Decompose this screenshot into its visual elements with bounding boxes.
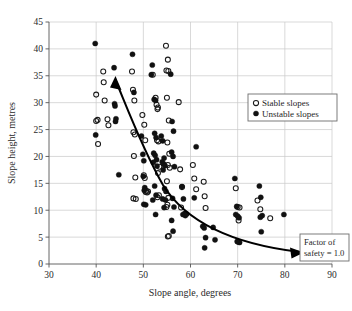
- data-point: [176, 100, 181, 105]
- annotation-line-1: Factor of: [304, 237, 335, 247]
- data-point: [130, 69, 135, 74]
- y-axis-title: Slope height, metres: [6, 102, 17, 184]
- data-point: [102, 98, 107, 103]
- legend: Stable slopes Unstable slopes: [248, 94, 337, 121]
- data-point: [192, 195, 197, 200]
- data-point: [212, 237, 217, 242]
- data-point: [163, 197, 168, 202]
- data-point: [113, 119, 118, 124]
- y-tick-label-10: 10: [34, 206, 44, 216]
- data-point: [161, 205, 166, 210]
- data-point: [202, 194, 207, 199]
- data-point: [116, 172, 121, 177]
- data-point: [192, 176, 197, 181]
- data-point: [165, 57, 170, 62]
- data-point: [163, 43, 168, 48]
- annotation-line-2: safety = 1.0: [304, 248, 344, 258]
- data-point: [150, 197, 155, 202]
- data-point: [165, 140, 170, 145]
- data-point: [141, 174, 146, 179]
- data-point: [160, 138, 165, 143]
- data-point: [153, 193, 158, 198]
- chart-canvas: 051015202530354045 30405060708090 Slope …: [0, 0, 352, 311]
- data-point: [168, 72, 173, 77]
- data-point: [258, 207, 263, 212]
- data-point: [93, 132, 98, 137]
- data-point: [93, 41, 98, 46]
- data-point: [190, 163, 195, 168]
- data-point: [131, 153, 136, 158]
- y-tick-label-35: 35: [34, 71, 44, 81]
- y-tick-label-20: 20: [34, 152, 44, 162]
- data-point: [170, 229, 175, 234]
- x-tick-label-50: 50: [139, 270, 149, 280]
- legend-label-unstable-slopes: Unstable slopes: [262, 109, 319, 119]
- data-point: [181, 196, 186, 201]
- factor-of-safety-annotation: Factor of safety = 1.0: [300, 234, 349, 261]
- x-tick-label-40: 40: [91, 270, 101, 280]
- y-tick-label-40: 40: [34, 44, 44, 54]
- data-point: [101, 80, 106, 85]
- data-point: [258, 195, 263, 200]
- data-point: [194, 187, 199, 192]
- data-point: [141, 158, 146, 163]
- data-point: [132, 98, 137, 103]
- x-axis-title: Slope angle, degrees: [149, 287, 232, 298]
- fos-arrowhead-upper-icon: [110, 76, 122, 90]
- slope-stability-scatter-chart: 051015202530354045 30405060708090 Slope …: [0, 0, 352, 311]
- x-tick-label-30: 30: [44, 270, 54, 280]
- data-point: [259, 229, 264, 234]
- data-point: [142, 122, 147, 127]
- data-point: [152, 183, 157, 188]
- data-point: [149, 72, 154, 77]
- data-point: [112, 103, 117, 108]
- data-point: [170, 119, 175, 124]
- data-point: [203, 206, 208, 211]
- data-point: [169, 218, 174, 223]
- y-tick-label-45: 45: [34, 17, 44, 27]
- data-point: [142, 188, 147, 193]
- data-point: [153, 98, 158, 103]
- x-tick-label-80: 80: [280, 270, 290, 280]
- data-point: [281, 212, 286, 217]
- data-point: [101, 69, 106, 74]
- data-point: [131, 90, 136, 95]
- data-point: [153, 135, 158, 140]
- data-point: [178, 167, 183, 172]
- data-point: [159, 133, 164, 138]
- y-axis-ticks: 051015202530354045: [34, 17, 50, 269]
- y-tick-label-0: 0: [38, 259, 43, 269]
- data-point: [133, 175, 138, 180]
- data-point: [203, 235, 208, 240]
- x-axis-ticks: 30405060708090: [44, 264, 337, 280]
- legend-label-stable-slopes: Stable slopes: [262, 98, 310, 108]
- y-tick-label-15: 15: [34, 179, 44, 189]
- data-point: [140, 113, 145, 118]
- data-point: [150, 62, 155, 67]
- y-tick-label-30: 30: [34, 98, 44, 108]
- data-point: [141, 202, 146, 207]
- data-point: [164, 179, 169, 184]
- data-point: [194, 144, 199, 149]
- data-point: [257, 183, 262, 188]
- data-point: [130, 52, 135, 57]
- data-point: [153, 212, 158, 217]
- legend-marker-filled-circle-icon: [253, 111, 258, 116]
- data-point: [106, 123, 111, 128]
- data-point: [171, 204, 176, 209]
- data-point: [236, 215, 241, 220]
- x-tick-label-70: 70: [233, 270, 243, 280]
- data-point: [164, 95, 169, 100]
- data-point: [170, 154, 175, 159]
- data-point: [171, 129, 176, 134]
- x-tick-label-60: 60: [186, 270, 196, 280]
- data-point: [172, 164, 177, 169]
- data-point: [154, 164, 159, 169]
- data-point: [234, 204, 239, 209]
- data-point: [111, 65, 116, 70]
- x-tick-label-90: 90: [327, 270, 337, 280]
- data-point: [202, 245, 207, 250]
- data-point: [258, 215, 263, 220]
- data-point: [179, 184, 184, 189]
- data-point: [202, 225, 207, 230]
